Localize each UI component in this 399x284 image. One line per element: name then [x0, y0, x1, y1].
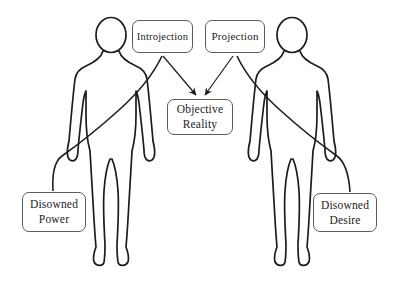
objective-reality-label-line2: Reality — [183, 117, 218, 132]
projection-label: Projection — [211, 29, 258, 43]
projection-to-objective-reality-arrow — [205, 56, 233, 95]
disowned-desire-label-line1: Disowned — [321, 198, 369, 213]
disowned-power-label-box: Disowned Power — [22, 192, 86, 232]
projection-label-box: Projection — [205, 20, 265, 53]
diagram-artwork — [0, 0, 399, 284]
introjection-label: Introjection — [137, 30, 188, 44]
diagram-canvas: Introjection Projection Objective Realit… — [0, 0, 399, 284]
objective-reality-label-line1: Objective — [177, 102, 224, 117]
disowned-power-label-line1: Disowned — [30, 197, 78, 212]
introjection-to-objective-reality-arrow — [163, 56, 196, 95]
objective-reality-label-box: Objective Reality — [167, 99, 233, 135]
disowned-power-label-line2: Power — [39, 212, 69, 227]
disowned-desire-label-box: Disowned Desire — [313, 193, 377, 232]
introjection-label-box: Introjection — [132, 20, 193, 53]
disowned-desire-label-line2: Desire — [329, 213, 360, 228]
